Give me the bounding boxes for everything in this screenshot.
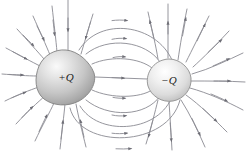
negative-charge: −Q — [147, 59, 191, 101]
field-line-neg-12-arrow — [149, 120, 153, 137]
field-line-inner-d4 — [70, 100, 180, 138]
field-line-inner-d2-arrow — [112, 115, 126, 116]
field-line-inner-u3-arrow — [112, 20, 127, 21]
field-line-neg-10-arrow — [170, 123, 171, 141]
field-line-pos-9 — [35, 103, 54, 141]
field-line-inner-0-arrow — [112, 78, 124, 79]
field-line-neg-8-arrow — [203, 109, 217, 122]
field-line-neg-7 — [190, 88, 243, 110]
negative-charge-label: −Q — [161, 74, 176, 86]
field-line-pos-8-arrow — [22, 107, 33, 118]
field-line-neg-4-arrow — [208, 40, 222, 53]
positive-charge-label: +Q — [58, 71, 73, 83]
field-line-pos-7-arrow — [12, 92, 26, 98]
field-line-pos-3-arrow — [37, 26, 44, 40]
electric-dipole-figure: +Q −Q — [0, 0, 247, 152]
positive-charge: +Q — [36, 50, 95, 105]
field-line-pos-4 — [17, 29, 44, 59]
field-line-inner-u3 — [79, 28, 172, 60]
field-line-pos-10-arrow — [61, 121, 63, 139]
field-line-pos-11 — [76, 104, 86, 147]
field-line-pos-8 — [16, 96, 45, 124]
field-line-inner-d3-arrow — [112, 133, 127, 134]
field-line-neg-7-arrow — [211, 94, 227, 101]
field-line-neg-9-arrow — [192, 119, 200, 136]
field-line-neg-3-arrow — [197, 25, 205, 42]
field-line-pos-4-arrow — [23, 35, 34, 46]
field-line-pos-11-arrow — [80, 120, 84, 137]
field-line-inner-d1 — [92, 90, 152, 96]
field-line-pos-6-arrow — [9, 74, 23, 75]
field-line-pos-5-arrow — [13, 52, 27, 59]
field-line-neg-8 — [186, 95, 227, 132]
field-line-inner-d1-arrow — [113, 97, 125, 98]
field-line-inner-u2-arrow — [112, 38, 126, 39]
field-line-inner-u1-arrow — [113, 57, 125, 58]
field-line-inner-u1 — [92, 59, 152, 68]
field-line-neg-5-arrow — [213, 59, 229, 66]
field-line-pos-12-arrow — [86, 22, 91, 39]
field-line-neg-11-arrow — [150, 21, 154, 38]
field-line-pos-9-arrow — [39, 115, 47, 131]
field-line-pos-2 — [52, 6, 57, 52]
dipole-field-diagram: +Q −Q — [0, 0, 247, 152]
